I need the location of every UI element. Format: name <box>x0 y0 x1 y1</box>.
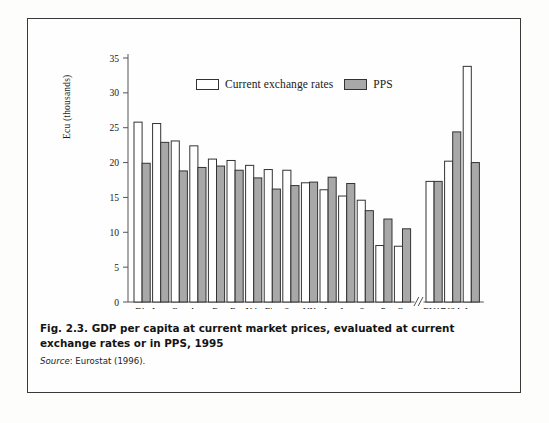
y-axis-title: Ecu (thousands) <box>62 75 72 139</box>
figure-frame: 05101520253035Dk.Lux.Ger.Aus.B.Fr.Nth.Fi… <box>27 18 521 393</box>
bar-current-exchange-rates <box>301 183 309 302</box>
x-tick-label: Fin. <box>265 307 280 309</box>
figure-caption: Fig. 2.3. GDP per capita at current mark… <box>40 321 510 351</box>
y-tick-label: 30 <box>109 87 119 98</box>
bar-current-exchange-rates <box>357 200 365 302</box>
x-tick-label: Ger. <box>171 307 187 309</box>
x-tick-label: Nth. <box>245 307 261 309</box>
bar-current-exchange-rates <box>208 159 216 302</box>
y-tick-label: 35 <box>109 53 119 64</box>
x-tick-label: Aus. <box>189 307 206 309</box>
x-tick-label: It. <box>324 307 332 309</box>
x-tick-label: Ire. <box>340 307 353 309</box>
chart-svg: 05101520253035Dk.Lux.Ger.Aus.B.Fr.Nth.Fi… <box>28 19 522 309</box>
x-tick-label: Gr. <box>397 307 409 309</box>
bar-pps <box>198 167 206 302</box>
chart-plot-area: 05101520253035Dk.Lux.Ger.Aus.B.Fr.Nth.Fi… <box>28 19 522 309</box>
y-tick-label: 5 <box>114 262 119 273</box>
legend-item-current-exchange-rates: Current exchange rates <box>196 78 333 90</box>
figure-caption-text: GDP per capita at current market prices,… <box>40 322 454 349</box>
x-tick-label: P. <box>381 307 388 309</box>
bar-current-exchange-rates <box>153 124 161 302</box>
bar-current-exchange-rates <box>171 141 179 302</box>
bar-pps <box>471 163 479 302</box>
bar-pps <box>310 182 318 302</box>
bar-current-exchange-rates <box>190 146 198 302</box>
figure-number: Fig. 2.3. <box>40 322 88 334</box>
bar-pps <box>291 186 299 302</box>
x-tick-label: Lux. <box>152 307 169 309</box>
bar-current-exchange-rates <box>264 170 272 302</box>
legend-swatch-current-exchange-rates <box>196 79 219 90</box>
figure-caption-block: Fig. 2.3. GDP per capita at current mark… <box>40 321 510 366</box>
source-word: Source <box>40 356 70 366</box>
bar-pps <box>403 229 411 302</box>
legend-label-pps: PPS <box>373 78 393 90</box>
bar-pps <box>217 166 225 302</box>
bar-current-exchange-rates <box>339 196 347 302</box>
scanned-page: 05101520253035Dk.Lux.Ger.Aus.B.Fr.Nth.Fi… <box>0 0 549 423</box>
legend-swatch-pps <box>344 79 367 90</box>
figure-source: Source: Eurostat (1996). <box>40 356 510 366</box>
y-tick-label: 20 <box>109 157 119 168</box>
bar-pps <box>272 189 280 302</box>
bar-pps <box>179 171 187 302</box>
x-tick-label: Fr. <box>230 307 240 309</box>
bar-pps <box>347 183 355 302</box>
bar-current-exchange-rates <box>227 160 235 302</box>
bar-current-exchange-rates <box>320 190 328 302</box>
bar-pps <box>328 177 336 302</box>
bar-pps <box>434 181 442 302</box>
x-tick-label: Sw. <box>284 307 298 309</box>
bar-current-exchange-rates <box>463 66 471 302</box>
bar-current-exchange-rates <box>376 246 384 302</box>
x-tick-label: Jap. <box>464 307 479 309</box>
bar-current-exchange-rates <box>394 246 402 302</box>
x-tick-label: UK <box>303 307 317 309</box>
x-tick-label: Dk. <box>135 307 149 309</box>
bar-current-exchange-rates <box>283 170 291 302</box>
x-tick-label: EU15 <box>423 307 445 309</box>
bar-pps <box>453 132 461 302</box>
bar-pps <box>384 219 392 302</box>
bar-current-exchange-rates <box>246 165 254 302</box>
y-tick-label: 10 <box>109 227 119 238</box>
chart-legend: Current exchange rates PPS <box>196 78 393 90</box>
bar-current-exchange-rates <box>134 122 142 302</box>
y-tick-label: 15 <box>109 192 119 203</box>
bar-pps <box>254 178 262 302</box>
bar-current-exchange-rates <box>426 181 434 302</box>
source-text: : Eurostat (1996). <box>70 356 146 366</box>
x-tick-label: Sp. <box>359 307 371 309</box>
y-tick-label: 25 <box>109 122 119 133</box>
bar-pps <box>161 142 169 302</box>
bar-pps <box>142 163 150 302</box>
bar-pps <box>235 170 243 302</box>
bar-pps <box>365 211 373 302</box>
bar-current-exchange-rates <box>445 161 453 302</box>
y-tick-label: 0 <box>114 297 119 308</box>
x-tick-label: USA <box>443 307 462 309</box>
x-tick-label: B. <box>212 307 221 309</box>
legend-label-current-exchange-rates: Current exchange rates <box>225 78 333 90</box>
legend-item-pps: PPS <box>344 78 393 90</box>
